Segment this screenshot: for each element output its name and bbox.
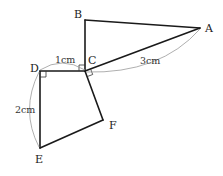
vertex-label-E: E xyxy=(35,153,43,166)
edge-FC xyxy=(85,71,103,120)
vertex-label-D: D xyxy=(30,62,39,75)
geometry-diagram: 1cm 3cm 2cm A B C D E F xyxy=(0,0,223,176)
measure-label-DE: 2cm xyxy=(15,104,35,115)
edge-EF xyxy=(40,120,103,148)
vertex-label-B: B xyxy=(74,8,82,21)
edge-BA xyxy=(85,20,200,28)
vertex-label-A: A xyxy=(204,22,214,35)
right-angle-mark-CDE xyxy=(40,71,46,77)
vertex-label-C: C xyxy=(88,54,96,67)
vertex-label-F: F xyxy=(109,119,117,132)
measure-label-DC: 1cm xyxy=(55,54,75,65)
measure-label-CA: 3cm xyxy=(140,55,160,66)
